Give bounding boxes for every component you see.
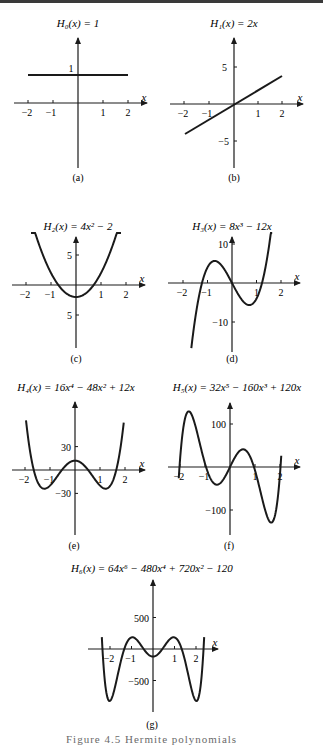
panel-g-label: (g) (146, 719, 158, 731)
x-tick-labels: −2−112 (22, 107, 131, 118)
y-tick-label: 10 (218, 239, 228, 250)
panel-a: H₀(x) = 1 −2−112 1 x (a) (14, 17, 147, 184)
panel-e-title: H₄(x) = 16x⁴ − 48x² + 12x (16, 381, 135, 394)
panel-b: H₁(x) = 2x −2−112 5−5 x (b) (170, 17, 303, 184)
x-tick-label: −1 (201, 287, 212, 298)
y-tick-label: 30 (61, 442, 71, 453)
panel-c-title: H₂(x) = 4x² − 2 (42, 220, 113, 233)
y-tick-label: 500 (134, 613, 149, 624)
panel-d-label: (d) (226, 353, 238, 365)
y-tick-label: −100 (205, 505, 226, 516)
panel-f: H₅(x) = 32x⁵ − 160x³ + 120x (f) x−2−1121… (168, 381, 301, 552)
x-tick-label: −2 (20, 289, 31, 300)
x-tick-label: −1 (125, 653, 136, 664)
x-axis-label: x (141, 91, 147, 103)
svg-text:5: 5 (222, 62, 227, 73)
x-tick-label: −2 (104, 653, 115, 664)
panel-e: H₄(x) = 16x⁴ − 48x² + 12x (e) x−2−11230−… (12, 381, 145, 552)
svg-text:−2: −2 (178, 108, 189, 119)
panel-f-label: (f) (224, 540, 234, 552)
hermite-polynomials-figure: H₀(x) = 1 −2−112 1 x (a) H₁(x) = 2x −2−1… (0, 0, 323, 745)
panel-g-title: H₆(x) = 64x⁶ − 480x⁴ + 720x² − 120 (70, 562, 233, 575)
svg-text:−1: −1 (46, 107, 57, 118)
y-tick-label: 100 (211, 419, 226, 430)
panel-b-title: H₁(x) = 2x (209, 17, 257, 30)
panel-c: H₂(x) = 4x² − 2 (c) x−2−11255 (12, 220, 145, 365)
x-axis-label: x (212, 636, 218, 648)
svg-text:−2: −2 (22, 107, 33, 118)
x-tick-label: 1 (172, 653, 177, 664)
y-tick-label: 5 (67, 310, 72, 321)
svg-text:2: 2 (280, 108, 285, 119)
svg-text:1: 1 (101, 107, 106, 118)
panel-c-label: (c) (70, 353, 81, 365)
svg-text:−1: −1 (202, 108, 213, 119)
x-tick-label: 2 (194, 653, 199, 664)
panel-d: H₃(x) = 8x³ − 12x (d) x−2−11210−10 (168, 220, 300, 365)
x-tick-label: −1 (45, 289, 56, 300)
y-tick-label: −500 (128, 676, 149, 687)
x-tick-label: 2 (124, 289, 129, 300)
x-tick-label: −2 (177, 287, 188, 298)
svg-text:2: 2 (126, 107, 131, 118)
panel-d-title: H₃(x) = 8x³ − 12x (191, 220, 272, 233)
x-axis-label: x (297, 91, 303, 103)
panel-e-label: (e) (68, 540, 79, 552)
svg-text:−5: −5 (218, 136, 229, 147)
x-axis-label: x (139, 457, 145, 469)
x-tick-label: 2 (123, 474, 128, 485)
panel-b-label: (b) (228, 172, 240, 184)
svg-text:1: 1 (256, 108, 261, 119)
x-tick-label: −2 (19, 474, 30, 485)
y-tick-label: 5 (67, 250, 72, 261)
panel-a-label: (a) (72, 172, 83, 184)
x-axis-label: x (294, 454, 300, 466)
y-tick-label: −10 (212, 317, 228, 328)
figure-caption: Figure 4.5 Hermite polynomials (66, 733, 237, 745)
panel-g: H₆(x) = 64x⁶ − 480x⁴ + 720x² − 120 (g) x… (70, 562, 233, 731)
x-axis-label: x (139, 272, 145, 284)
y-tick-label: −30 (55, 488, 71, 499)
panel-f-title: H₅(x) = 32x⁵ − 160x³ + 120x (172, 381, 302, 394)
x-tick-label: 2 (279, 287, 284, 298)
x-axis-label: x (294, 270, 300, 282)
panel-a-title: H₀(x) = 1 (56, 17, 99, 30)
y-tick-label: 1 (69, 63, 74, 74)
x-tick-label: 1 (99, 289, 104, 300)
